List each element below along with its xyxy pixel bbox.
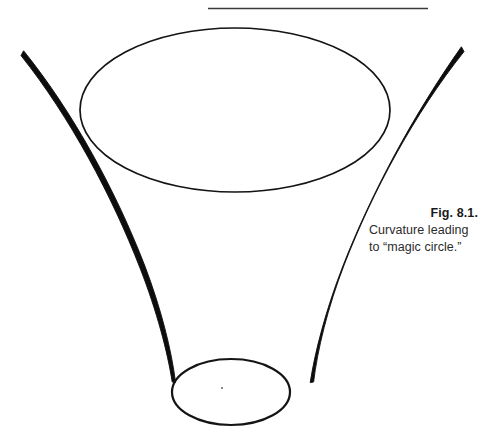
figure-caption-line-2: to “magic circle.”	[362, 239, 482, 256]
funnel-lower-rim-ellipse	[172, 359, 290, 425]
magic-circle-upper-rim-ellipse	[80, 28, 390, 192]
funnel-wall-left-curve	[21, 51, 176, 383]
figure-caption: Fig. 8.1. Curvature leading to “magic ci…	[362, 205, 482, 256]
figure-page: Fig. 8.1. Curvature leading to “magic ci…	[0, 0, 485, 444]
figure-caption-number: Fig. 8.1.	[362, 205, 482, 221]
funnel-center-point-dot	[221, 387, 223, 389]
figure-caption-line-1: Curvature leading	[362, 222, 482, 239]
figure-caption-text: Curvature leading to “magic circle.”	[362, 222, 482, 256]
